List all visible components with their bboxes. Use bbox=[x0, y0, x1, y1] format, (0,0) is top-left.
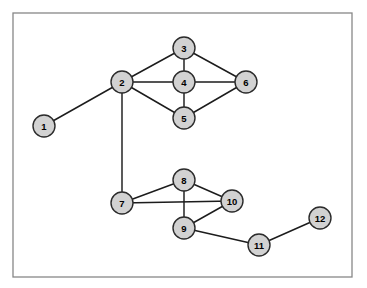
graph-node-3[interactable]: 3 bbox=[173, 37, 195, 59]
node-layer: 123456789101112 bbox=[33, 37, 331, 256]
node-label-5: 5 bbox=[181, 113, 187, 124]
graph-node-2[interactable]: 2 bbox=[111, 71, 133, 93]
graph-node-9[interactable]: 9 bbox=[173, 217, 195, 239]
graph-node-4[interactable]: 4 bbox=[173, 71, 195, 93]
graph-node-1[interactable]: 1 bbox=[33, 115, 55, 137]
node-label-10: 10 bbox=[227, 196, 238, 207]
node-label-11: 11 bbox=[254, 240, 265, 251]
node-label-9: 9 bbox=[181, 223, 186, 234]
graph-edge-1-2 bbox=[44, 82, 122, 126]
node-label-3: 3 bbox=[181, 43, 186, 54]
graph-figure: 123456789101112 bbox=[0, 0, 367, 288]
node-label-6: 6 bbox=[243, 77, 248, 88]
graph-node-12[interactable]: 12 bbox=[309, 207, 331, 229]
graph-node-6[interactable]: 6 bbox=[235, 71, 257, 93]
graph-node-10[interactable]: 10 bbox=[221, 190, 243, 212]
graph-node-7[interactable]: 7 bbox=[111, 192, 133, 214]
graph-edge-7-10 bbox=[122, 201, 232, 203]
node-label-8: 8 bbox=[181, 175, 186, 186]
node-label-2: 2 bbox=[119, 77, 124, 88]
node-label-7: 7 bbox=[119, 198, 124, 209]
node-label-12: 12 bbox=[315, 213, 326, 224]
node-label-1: 1 bbox=[41, 121, 47, 132]
graph-canvas: 123456789101112 bbox=[0, 0, 367, 288]
graph-node-11[interactable]: 11 bbox=[248, 234, 270, 256]
node-label-4: 4 bbox=[181, 77, 187, 88]
graph-node-5[interactable]: 5 bbox=[173, 107, 195, 129]
graph-node-8[interactable]: 8 bbox=[173, 169, 195, 191]
